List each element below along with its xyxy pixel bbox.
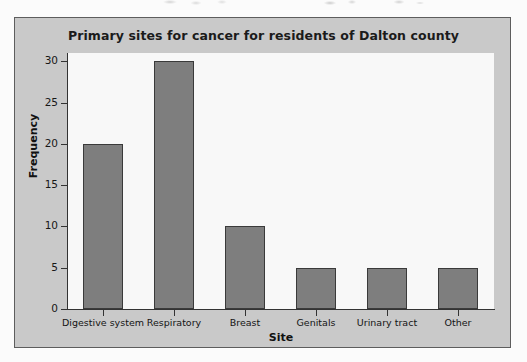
y-axis-line [67, 53, 68, 310]
x-tick-label: Other [445, 317, 472, 328]
y-tick: 5 [61, 268, 67, 269]
y-tick-label: 0 [51, 302, 58, 314]
y-tick-label: 5 [51, 261, 58, 273]
x-axis-line [67, 309, 495, 310]
x-tick [245, 310, 246, 316]
x-tick-label: Genitals [296, 317, 335, 328]
y-tick: 25 [61, 103, 67, 104]
y-tick: 15 [61, 185, 67, 186]
bar [438, 268, 478, 309]
x-axis-title: Site [67, 331, 495, 344]
x-tick-label: Urinary tract [357, 317, 417, 328]
bar [367, 268, 407, 309]
y-tick-label: 30 [45, 54, 58, 66]
bar [154, 61, 194, 309]
y-tick: 30 [61, 61, 67, 62]
x-tick [387, 310, 388, 316]
bar [83, 144, 123, 309]
x-tick-label: Digestive system [62, 317, 144, 328]
scanned-page-artifact [0, 0, 527, 14]
x-tick [458, 310, 459, 316]
chart-title: Primary sites for cancer for residents o… [15, 28, 512, 43]
x-tick [174, 310, 175, 316]
y-tick-label: 15 [45, 178, 58, 190]
y-tick-label: 20 [45, 137, 58, 149]
x-tick [316, 310, 317, 316]
plot-area [67, 53, 494, 309]
bar [225, 226, 265, 309]
y-tick: 0 [61, 309, 67, 310]
x-tick [103, 310, 104, 316]
chart-figure-panel: Primary sites for cancer for residents o… [14, 17, 511, 348]
y-tick-label: 25 [45, 96, 58, 108]
bar [296, 268, 336, 309]
x-tick-label: Respiratory [147, 317, 201, 328]
y-tick-label: 10 [45, 219, 58, 231]
y-tick: 20 [61, 144, 67, 145]
y-tick: 10 [61, 226, 67, 227]
x-tick-label: Breast [230, 317, 261, 328]
y-axis-title: Frequency [27, 114, 40, 178]
